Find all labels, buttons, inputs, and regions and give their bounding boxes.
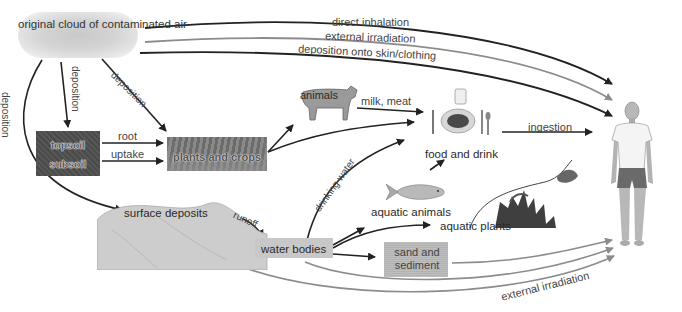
sand-and-sediment-label: sand and sediment [390,246,444,271]
surface-deposits-label: surface deposits [124,207,208,220]
plants-label: plants and crops [167,151,267,163]
aquatic-animals-label: aquatic animals [371,206,451,219]
ingestion-label: ingestion [528,122,572,133]
fish-icon [386,181,448,203]
deposition-left-label: deposition [0,92,10,138]
aquatic-plants-label: aquatic plants [440,220,511,233]
direct-inhalation-label: direct inhalation [332,17,409,28]
human-figure-icon [604,100,660,250]
deposition-middle-label: deposition [70,66,80,112]
milk-meat-label: milk, meat [361,96,411,107]
uptake-label: uptake [111,149,144,160]
contamination-pathways-diagram: original cloud of contaminated air direc… [0,0,682,312]
soil-box: topsoil subsoil [36,131,100,176]
root-label: root [118,131,137,142]
food-and-drink-icon [428,88,494,138]
plants-and-crops-box: plants and crops [167,137,267,171]
contaminated-air-cloud: original cloud of contaminated air [18,12,138,58]
subsoil-label: subsoil [36,158,100,170]
cloud-label: original cloud of contaminated air [18,12,138,31]
water-bodies-label: water bodies [261,243,326,256]
animals-label: animals [300,89,338,102]
food-and-drink-label: food and drink [425,148,498,161]
topsoil-label: topsoil [36,139,100,151]
